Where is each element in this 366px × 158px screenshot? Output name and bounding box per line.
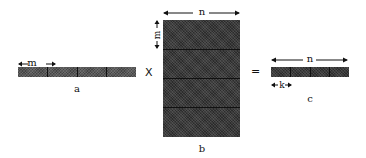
dimension-label-n: n bbox=[192, 7, 212, 17]
block-divider bbox=[310, 67, 311, 77]
matrix-b-label: b bbox=[192, 144, 212, 154]
block-divider bbox=[106, 67, 107, 77]
block-divider bbox=[163, 49, 240, 50]
dimension-label-m-side: m bbox=[152, 30, 162, 40]
block-divider bbox=[163, 107, 240, 108]
matrix-b bbox=[163, 20, 240, 137]
multiply-operator: X bbox=[145, 67, 153, 78]
matrix-c-label: c bbox=[300, 94, 320, 104]
dimension-label-k: k bbox=[277, 80, 287, 90]
matrix-c bbox=[271, 67, 349, 77]
matrix-a bbox=[18, 67, 136, 77]
block-divider bbox=[47, 67, 48, 77]
equals-operator: = bbox=[251, 66, 260, 77]
block-divider bbox=[77, 67, 78, 77]
matrix-a-label: a bbox=[67, 84, 87, 94]
block-divider bbox=[329, 67, 330, 77]
dimension-label-n-c: n bbox=[300, 54, 320, 64]
block-divider bbox=[290, 67, 291, 77]
block-divider bbox=[163, 78, 240, 79]
